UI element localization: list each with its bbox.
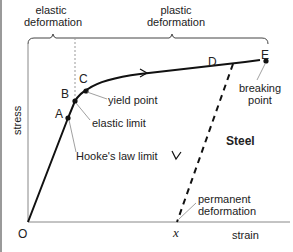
leader-b — [76, 103, 90, 120]
point-c-dot — [83, 88, 88, 93]
unloading-arrow-icon — [172, 151, 181, 159]
leader-c — [87, 92, 107, 99]
elastic-region-label: elastic deformation — [24, 4, 78, 28]
point-d-label: D — [208, 56, 217, 68]
point-c-label: C — [79, 73, 88, 85]
point-b-label: B — [61, 88, 69, 100]
elastic-label-line2: deformation — [24, 16, 78, 28]
leader-a — [69, 120, 76, 152]
material-label: Steel — [226, 135, 255, 147]
point-b-dot — [72, 98, 77, 103]
permanent-line2: deformation — [198, 205, 256, 217]
y-axis-label: stress — [11, 106, 23, 135]
origin-label: O — [18, 228, 27, 240]
leader-e — [257, 64, 265, 80]
point-a-dot — [65, 115, 70, 120]
hookes-law-limit-annotation: Hooke's law limit — [76, 150, 158, 162]
elastic-limit-annotation: elastic limit — [92, 117, 146, 129]
permanent-strain-label: x — [173, 227, 179, 239]
breaking-line2: point — [237, 94, 283, 106]
breaking-line1: breaking — [237, 82, 283, 94]
yield-point-annotation: yield point — [108, 94, 158, 106]
point-a-label: A — [55, 108, 63, 120]
breaking-point-annotation: breaking point — [237, 82, 283, 106]
stress-strain-diagram: elastic deformation plastic deformation … — [0, 0, 293, 252]
point-e-label: E — [261, 49, 269, 61]
elastic-brace — [28, 34, 75, 44]
plastic-label-line2: deformation — [146, 16, 206, 28]
plastic-region-label: plastic deformation — [146, 4, 206, 28]
elastic-label-line1: elastic — [24, 4, 78, 16]
plastic-brace — [75, 34, 268, 44]
permanent-deformation-annotation: permanent deformation — [198, 193, 256, 217]
permanent-line1: permanent — [198, 193, 256, 205]
x-axis-label: strain — [232, 229, 259, 241]
plastic-label-line1: plastic — [146, 4, 206, 16]
